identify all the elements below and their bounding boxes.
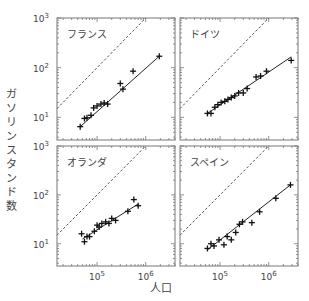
- y-tick-label: 102: [33, 189, 49, 201]
- data-point: [258, 73, 264, 79]
- data-point: [224, 234, 230, 240]
- data-point: [204, 245, 210, 251]
- panel-1: フランス103102101: [33, 12, 175, 140]
- data-point: [131, 197, 137, 203]
- fit-line: [82, 204, 138, 239]
- panel-title: ドイツ: [190, 29, 220, 40]
- data-point: [105, 101, 111, 107]
- panel-title: フランス: [67, 29, 107, 40]
- data-point: [101, 100, 107, 106]
- y-tick-label: 103: [33, 12, 49, 24]
- panel-4: スペイン105106: [180, 146, 298, 282]
- data-point: [273, 195, 279, 201]
- data-point: [221, 242, 227, 248]
- data-point: [244, 86, 250, 92]
- x-tick-label: 106: [138, 270, 154, 282]
- x-tick-label: 106: [261, 270, 277, 282]
- data-point: [117, 81, 123, 87]
- chart-figure: フランス103102101ドイツオランダ103102101105106スペイン1…: [0, 0, 309, 301]
- panel-title: スペイン: [190, 157, 229, 168]
- data-point: [233, 229, 239, 235]
- fit-line: [80, 56, 159, 126]
- panel-2: ドイツ: [180, 18, 298, 140]
- data-point: [249, 220, 255, 226]
- panel-3: オランダ103102101105106: [33, 140, 175, 282]
- data-point: [257, 209, 263, 215]
- data-point: [81, 239, 87, 245]
- y-tick-label: 103: [33, 140, 49, 152]
- panel-title: オランダ: [67, 156, 107, 168]
- y-tick-label: 101: [33, 238, 49, 250]
- data-point: [79, 231, 85, 237]
- x-tick-label: 105: [89, 270, 105, 282]
- data-point: [228, 237, 234, 243]
- y-tick-label: 101: [33, 111, 49, 123]
- data-point: [263, 68, 269, 74]
- data-point: [208, 110, 214, 116]
- y-tick-label: 102: [33, 62, 49, 74]
- x-tick-label: 105: [212, 270, 228, 282]
- data-point: [135, 203, 141, 209]
- data-point: [130, 68, 136, 74]
